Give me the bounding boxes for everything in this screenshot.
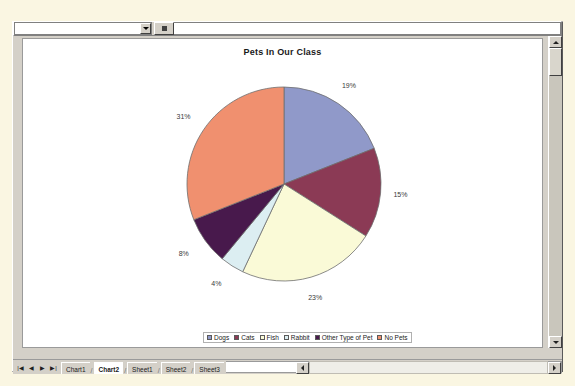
sheet-tab-sheet3[interactable]: Sheet3 (194, 362, 224, 374)
horizontal-scrollbar[interactable] (296, 361, 561, 374)
chart-toolbar (13, 21, 562, 36)
legend-label: Dogs (214, 334, 229, 341)
legend-item[interactable]: Rabbit (284, 334, 310, 341)
legend-item[interactable]: Other Type of Pet (315, 334, 373, 341)
legend-label: Cats (241, 334, 254, 341)
sheet-tab-chart2[interactable]: Chart2 (94, 362, 124, 374)
tab-nav-first-icon[interactable]: |◀ (15, 362, 26, 373)
scroll-up-button[interactable] (549, 36, 562, 48)
tab-nav-prev-icon[interactable]: ◀ (26, 362, 37, 373)
chart-objects-dropdown[interactable] (14, 22, 152, 35)
pie-data-label: 23% (308, 294, 322, 301)
legend-item[interactable]: Fish (260, 334, 279, 341)
legend-label: Fish (267, 334, 279, 341)
format-object-button[interactable] (154, 22, 174, 35)
format-square-icon (162, 26, 167, 31)
legend-swatch-icon (377, 335, 382, 340)
legend-swatch-icon (234, 335, 239, 340)
legend-swatch-icon (260, 335, 265, 340)
legend-label: Other Type of Pet (322, 334, 373, 341)
chevron-down-icon[interactable] (140, 23, 151, 34)
legend-item[interactable]: No Pets (377, 334, 407, 341)
legend-label: Rabbit (291, 334, 310, 341)
pie-chart: 19%15%23%4%8%31% (23, 39, 542, 347)
scroll-down-button[interactable] (549, 336, 562, 348)
pie-data-label: 8% (179, 250, 189, 257)
toolbar-empty-area (174, 22, 561, 35)
chart-legend[interactable]: DogsCatsFishRabbitOther Type of PetNo Pe… (203, 332, 412, 343)
tab-navigation-buttons[interactable]: |◀ ◀ ▶ ▶| (13, 362, 59, 373)
legend-label: No Pets (384, 334, 407, 341)
chart-sheet-canvas[interactable]: Pets In Our Class 19%15%23%4%8%31% DogsC… (22, 38, 543, 348)
legend-swatch-icon (315, 335, 320, 340)
scroll-right-button[interactable] (548, 362, 561, 374)
pie-data-label: 31% (177, 113, 191, 120)
horizontal-scroll-track[interactable] (309, 361, 548, 374)
sheet-tab-sheet1[interactable]: Sheet1 (127, 362, 157, 374)
legend-swatch-icon (284, 335, 289, 340)
pie-chart-svg (179, 64, 389, 314)
pie-data-label: 15% (393, 191, 407, 198)
legend-swatch-icon (207, 335, 212, 340)
tab-nav-last-icon[interactable]: ▶| (48, 362, 59, 373)
legend-item[interactable]: Dogs (207, 334, 229, 341)
sheet-tab-sheet2[interactable]: Sheet2 (161, 362, 191, 374)
legend-item[interactable]: Cats (234, 334, 254, 341)
tab-nav-next-icon[interactable]: ▶ (37, 362, 48, 373)
vertical-scroll-track[interactable] (549, 76, 562, 336)
sheet-tabs[interactable]: Chart1/Chart2/Sheet1/Sheet2/Sheet3 (61, 360, 224, 374)
scroll-left-button[interactable] (296, 362, 309, 374)
pie-data-label: 19% (342, 82, 356, 89)
sheet-tab-chart1[interactable]: Chart1 (61, 362, 90, 374)
pie-data-label: 4% (211, 280, 221, 287)
vertical-scrollbar[interactable] (548, 36, 561, 348)
vertical-scroll-thumb[interactable] (549, 48, 562, 76)
